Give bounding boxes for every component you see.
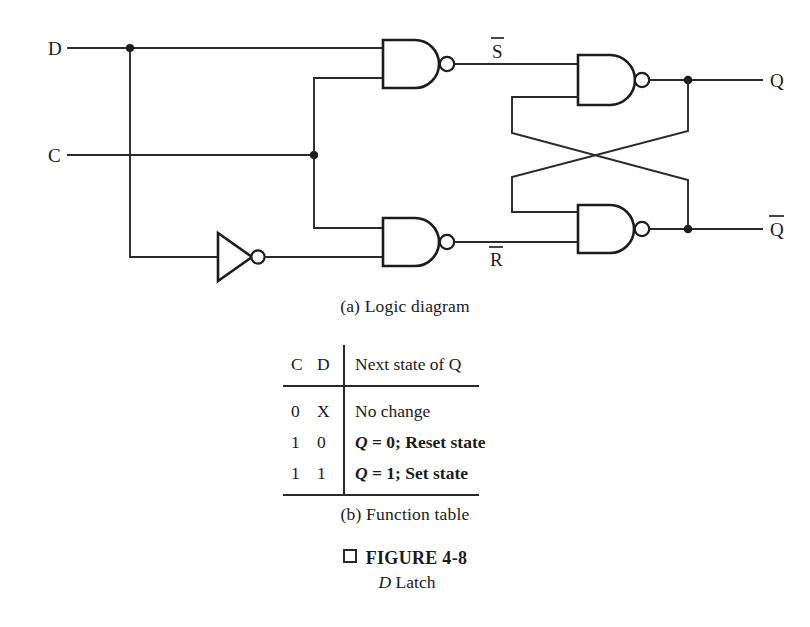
- gate-nand-reset-body: [383, 218, 439, 266]
- figure-caption-title-line: FIGURE 4-8: [0, 548, 810, 569]
- input-label-d: D: [48, 38, 62, 59]
- q-detail: = 1; Set state: [368, 463, 468, 483]
- q-symbol: Q: [355, 432, 368, 452]
- table-header-d: D: [317, 354, 330, 375]
- table-header-next-state: Next state of Q: [355, 354, 461, 375]
- input-label-c: C: [48, 145, 61, 166]
- figure-container: D C S R Q: [0, 0, 810, 627]
- table-header-rule: [283, 385, 479, 387]
- table-cell-next-0: No change: [355, 401, 430, 422]
- figure-number: FIGURE 4-8: [366, 548, 468, 568]
- table-row: 1: [291, 463, 300, 484]
- output-label-q-bar: Q: [770, 219, 784, 240]
- figure-caption-subject: D Latch: [0, 572, 810, 593]
- junction-dot-c: [310, 151, 318, 159]
- wire-c-to-nand-reset: [314, 155, 383, 228]
- table-row: 1: [291, 432, 300, 453]
- logic-diagram: D C S R Q: [0, 0, 810, 310]
- signal-label-s-bar: S: [492, 41, 503, 62]
- signal-label-r-bar: R: [490, 249, 503, 270]
- junction-dot-d: [126, 44, 134, 52]
- gate-nand-q-body: [578, 55, 635, 105]
- caption-function-table: (b) Function table: [0, 504, 810, 525]
- nand-set-bubble-icon: [440, 57, 454, 71]
- table-row: 0: [291, 401, 300, 422]
- table-header-c: C: [291, 354, 303, 375]
- q-detail: = 0; Reset state: [368, 432, 486, 452]
- table-cell-next-2: Q = 1; Set state: [355, 463, 468, 484]
- gate-nand-qbar-body: [578, 205, 634, 253]
- nand-reset-bubble-icon: [440, 235, 454, 249]
- wire-d-branch-to-inverter: [130, 48, 218, 257]
- inverter-bubble-icon: [251, 250, 264, 263]
- table-vertical-divider: [343, 345, 345, 495]
- table-cell-d-2: 1: [317, 463, 326, 484]
- figure-caption-block: FIGURE 4-8 D Latch: [0, 548, 810, 593]
- table-cell-next-1: Q = 0; Reset state: [355, 432, 485, 453]
- nand-q-bubble-icon: [635, 73, 649, 87]
- gate-inverter-body: [218, 233, 252, 281]
- table-cell-d-0: X: [317, 401, 330, 422]
- figure-subject-symbol: D: [379, 572, 392, 592]
- q-symbol: Q: [355, 463, 368, 483]
- square-bullet-icon: [343, 549, 357, 563]
- output-label-q: Q: [770, 70, 784, 91]
- figure-subject-text: Latch: [391, 572, 435, 592]
- table-cell-d-1: 0: [317, 432, 326, 453]
- wire-c-to-nand-set: [314, 78, 383, 155]
- caption-logic-diagram: (a) Logic diagram: [0, 296, 810, 317]
- gate-nand-set-body: [383, 40, 439, 88]
- table-bottom-rule: [283, 494, 479, 496]
- nand-qbar-bubble-icon: [635, 222, 649, 236]
